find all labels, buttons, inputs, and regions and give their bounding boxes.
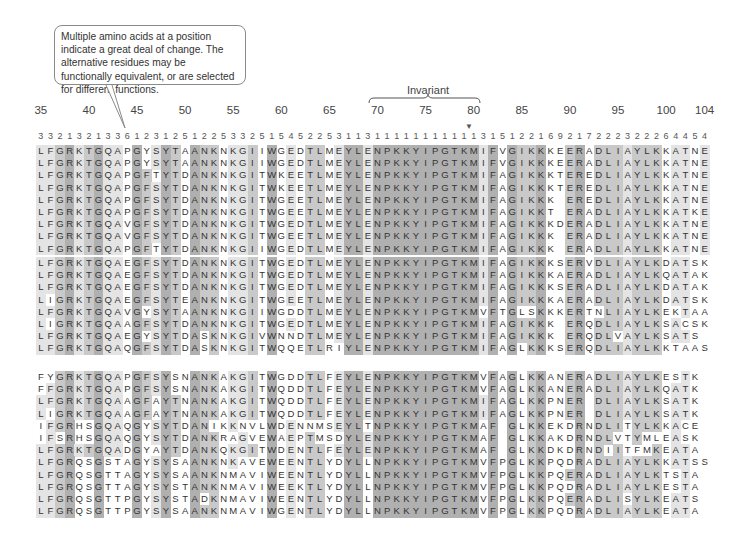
residue: T [681,469,691,481]
residue: G [132,505,142,517]
residue: K [459,330,469,342]
residue: N [219,243,229,255]
residue: G [507,444,517,456]
residue: F [488,243,498,255]
residue: N [296,420,306,432]
residue: K [228,218,238,230]
residue: K [546,294,556,306]
marker-arrow-icon: ▼ [465,122,473,131]
residue: S [555,281,565,293]
residue: E [334,145,344,157]
residue: F [142,169,152,181]
residue: T [584,306,594,318]
residue: L [353,281,363,293]
residue: S [661,318,671,330]
residue: D [180,420,190,432]
residue: Y [632,218,642,230]
residue: D [180,194,190,206]
residue: I [613,420,623,432]
residue: Q [74,493,84,505]
residue: D [296,243,306,255]
residue: A [623,408,633,420]
residue: A [113,157,123,169]
variability-count: 1 [94,131,104,141]
residue: E [334,269,344,281]
residue: K [228,420,238,432]
residue: Y [161,318,171,330]
residue: P [123,157,133,169]
residue: A [113,230,123,242]
residue: S [151,294,161,306]
residue: A [219,408,229,420]
residue: G [94,456,104,468]
position-label: 70 [371,104,384,116]
residue: E [334,230,344,242]
residue: F [488,294,498,306]
residue: K [209,169,219,181]
residue: I [257,493,267,505]
residue: Y [344,194,354,206]
residue: K [74,206,84,218]
residue: K [74,371,84,383]
residue: K [536,230,546,242]
residue: E [334,281,344,293]
residue: G [55,218,65,230]
residue: N [200,306,210,318]
residue: K [402,318,412,330]
residue: A [498,269,508,281]
residue: W [267,493,277,505]
residue: G [507,318,517,330]
residue: F [46,269,56,281]
residue: S [200,342,210,354]
residue: K [74,383,84,395]
residue: D [594,230,604,242]
residue: W [267,456,277,468]
residue: N [200,371,210,383]
residue: T [171,169,181,181]
residue: D [565,456,575,468]
residue: K [228,145,238,157]
residue: K [228,157,238,169]
residue: K [209,371,219,383]
residue: Q [103,269,113,281]
residue: D [296,330,306,342]
residue: P [430,505,440,517]
residue: Q [103,243,113,255]
residue: T [180,481,190,493]
residue: I [421,218,431,230]
residue: P [123,383,133,395]
residue: K [402,294,412,306]
residue: G [55,395,65,407]
residue: A [623,230,633,242]
residue: R [65,330,75,342]
residue: Y [161,395,171,407]
residue: G [94,318,104,330]
residue: Y [632,257,642,269]
residue: A [151,395,161,407]
residue: K [459,481,469,493]
residue: F [46,306,56,318]
position-label: 100 [657,104,676,116]
residue: F [46,281,56,293]
residue: Y [142,469,152,481]
residue: K [536,444,546,456]
residue: E [334,218,344,230]
residue: G [238,306,248,318]
residue: S [151,269,161,281]
residue: D [296,145,306,157]
residue: E [584,182,594,194]
residue: D [200,493,210,505]
residue: E [286,169,296,181]
residue: L [604,408,614,420]
residue: F [46,481,56,493]
residue: G [55,469,65,481]
residue: R [575,395,585,407]
residue: I [613,481,623,493]
residue: I [421,330,431,342]
residue: A [584,243,594,255]
residue: G [132,456,142,468]
residue: K [527,408,537,420]
residue: R [65,182,75,194]
residue: N [200,182,210,194]
residue: F [46,206,56,218]
